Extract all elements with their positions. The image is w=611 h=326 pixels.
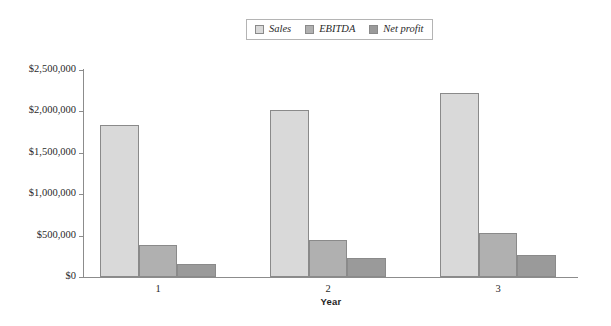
- bar-group: 3: [440, 70, 556, 277]
- bar-group: 2: [270, 70, 386, 277]
- y-tick-label: $500,000: [37, 229, 76, 240]
- legend-swatch-icon: [369, 25, 378, 34]
- legend-label: Sales: [269, 24, 291, 35]
- bar[interactable]: [440, 93, 479, 277]
- legend-label: EBITDA: [319, 24, 355, 35]
- x-tick-label: 2: [270, 283, 386, 294]
- y-tick-label: $2,000,000: [29, 104, 76, 115]
- legend-entry[interactable]: Net profit: [369, 24, 423, 35]
- x-tick-label: 1: [100, 283, 216, 294]
- bar[interactable]: [177, 264, 216, 277]
- y-tick-label: $1,500,000: [29, 146, 76, 157]
- legend-label: Net profit: [383, 24, 423, 35]
- bar[interactable]: [139, 245, 178, 277]
- bar[interactable]: [309, 240, 348, 277]
- y-tick-mark: [79, 194, 84, 195]
- x-axis-line: [83, 277, 578, 278]
- bar[interactable]: [517, 255, 556, 277]
- y-tick-label: $2,500,000: [29, 63, 76, 74]
- bar[interactable]: [270, 110, 309, 277]
- y-tick-mark: [79, 111, 84, 112]
- plot-area: $0$500,000$1,000,000$1,500,000$2,000,000…: [84, 70, 578, 277]
- y-tick-mark: [79, 277, 84, 278]
- legend-swatch-icon: [255, 25, 264, 34]
- legend-entry[interactable]: EBITDA: [305, 24, 355, 35]
- x-axis-title: Year: [84, 296, 578, 307]
- chart-legend: SalesEBITDANet profit: [246, 19, 433, 40]
- bar-group: 1: [100, 70, 216, 277]
- bar[interactable]: [347, 258, 386, 277]
- y-tick-label: $1,000,000: [29, 187, 76, 198]
- y-tick-mark: [79, 236, 84, 237]
- y-tick-mark: [79, 153, 84, 154]
- legend-swatch-icon: [305, 25, 314, 34]
- x-tick-label: 3: [440, 283, 556, 294]
- legend-entry[interactable]: Sales: [255, 24, 291, 35]
- bar-chart: SalesEBITDANet profit $0$500,000$1,000,0…: [0, 0, 611, 326]
- bar[interactable]: [479, 233, 518, 277]
- bar[interactable]: [100, 125, 139, 277]
- y-tick-mark: [79, 70, 84, 71]
- y-tick-label: $0: [66, 270, 77, 281]
